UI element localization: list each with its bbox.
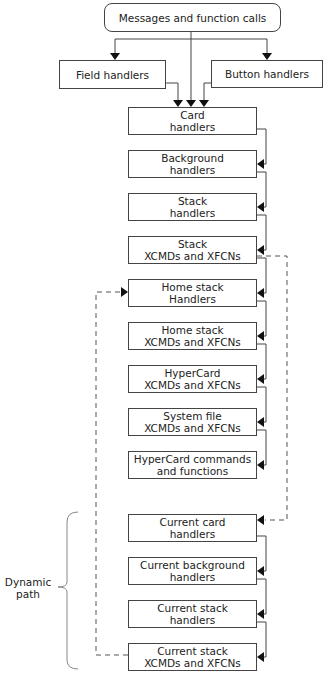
hypercard-commands-node: HyperCard commands and functions (128, 451, 257, 479)
stack-handlers-node: Stack handlers (128, 193, 257, 221)
field-handlers-node: Field handlers (59, 60, 166, 89)
current-stack-xcmds-node: Current stack XCMDs and XFCNs (128, 643, 257, 671)
current-card-handlers-node: Current card handlers (128, 514, 257, 542)
button-handlers-node: Button handlers (211, 60, 323, 88)
background-handlers-node: Background handlers (128, 150, 257, 178)
hypercard-xcmds-node: HyperCard XCMDs and XFCNs (128, 365, 257, 393)
system-file-xcmds-node: System file XCMDs and XFCNs (128, 408, 257, 436)
stack-xcmds-node: Stack XCMDs and XFCNs (128, 236, 257, 264)
home-stack-handlers-node: Home stack Handlers (128, 279, 257, 307)
card-handlers-node: Card handlers (128, 107, 257, 135)
current-background-handlers-node: Current background handlers (128, 557, 257, 585)
dynamic-path-label: Dynamic path (2, 576, 54, 600)
messages-source-node: Messages and function calls (104, 3, 281, 32)
current-stack-handlers-node: Current stack handlers (128, 600, 257, 628)
home-stack-xcmds-node: Home stack XCMDs and XFCNs (128, 322, 257, 350)
